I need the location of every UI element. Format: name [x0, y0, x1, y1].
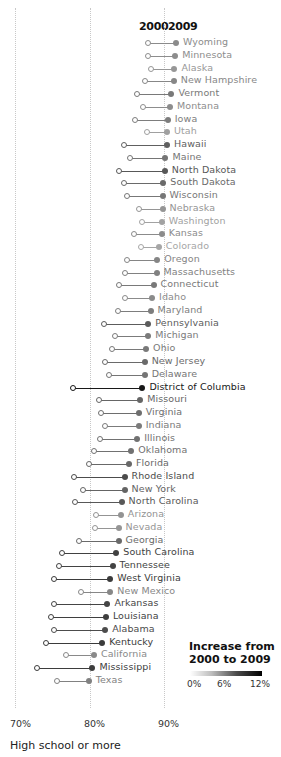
state-label: Pennsylvania [155, 317, 219, 328]
state-row: Massachusetts [0, 268, 281, 280]
marker-2000 [63, 652, 69, 658]
change-segment [115, 336, 149, 337]
marker-2009 [107, 589, 113, 595]
change-segment [134, 234, 162, 235]
marker-2009 [149, 295, 155, 301]
state-row: Minnesota [0, 51, 281, 63]
change-segment [137, 94, 171, 95]
state-label: New Hampshire [181, 74, 257, 85]
state-label: North Dakota [172, 164, 236, 175]
marker-2000 [109, 346, 115, 352]
state-label: North Carolina [129, 495, 199, 506]
state-row: Colorado [0, 242, 281, 254]
marker-2009 [142, 359, 148, 365]
marker-2009 [128, 448, 134, 454]
change-segment [89, 464, 129, 465]
marker-2000 [51, 601, 57, 607]
state-row: Oregon [0, 255, 281, 267]
marker-2000 [86, 461, 92, 467]
state-label: Louisiana [113, 610, 159, 621]
state-label: Minnesota [182, 49, 232, 60]
marker-2000 [136, 206, 142, 212]
marker-2000 [148, 66, 154, 72]
state-label: West Virginia [117, 572, 181, 583]
x-tick-90: 90% [158, 718, 179, 729]
change-segment [51, 617, 106, 618]
marker-2000 [102, 423, 108, 429]
state-label: Kentucky [109, 636, 153, 647]
marker-2000 [122, 295, 128, 301]
change-segment [148, 56, 175, 57]
state-label: New York [132, 483, 176, 494]
marker-2009 [91, 652, 97, 658]
change-segment [54, 604, 107, 605]
marker-2009 [116, 525, 122, 531]
change-segment [75, 502, 121, 503]
change-segment [135, 120, 168, 121]
marker-2009 [119, 499, 125, 505]
marker-2000 [132, 117, 138, 123]
marker-2009 [164, 129, 170, 135]
change-segment [95, 528, 119, 529]
state-label: Maine [172, 151, 201, 162]
marker-2000 [142, 78, 148, 84]
marker-2000 [145, 40, 151, 46]
marker-2009 [156, 244, 162, 250]
marker-2009 [139, 385, 145, 391]
state-row: Washington [0, 217, 281, 229]
state-label: Kansas [169, 227, 203, 238]
change-segment [105, 426, 139, 427]
marker-2009 [136, 423, 142, 429]
marker-2009 [143, 346, 149, 352]
state-label: Georgia [126, 534, 164, 545]
state-label: Arizona [128, 508, 164, 519]
state-row: Michigan [0, 331, 281, 343]
state-label: Maryland [158, 304, 203, 315]
state-label: Nevada [126, 521, 163, 532]
marker-2009 [102, 627, 108, 633]
state-label: Vermont [178, 87, 219, 98]
marker-2009 [162, 168, 168, 174]
marker-2000 [145, 53, 151, 59]
marker-2009 [118, 512, 124, 518]
change-segment [104, 324, 149, 325]
state-row: Virginia [0, 408, 281, 420]
marker-2000 [54, 678, 60, 684]
marker-2000 [127, 155, 133, 161]
state-label: Texas [96, 674, 123, 685]
marker-2000 [121, 180, 127, 186]
marker-2000 [72, 499, 78, 505]
marker-2000 [48, 614, 54, 620]
marker-2000 [101, 321, 107, 327]
marker-2000 [56, 563, 62, 569]
marker-2000 [139, 219, 145, 225]
change-segment [127, 196, 162, 197]
state-label: Idaho [159, 291, 186, 302]
marker-2000 [80, 487, 86, 493]
state-label: Colorado [166, 240, 209, 251]
marker-2000 [93, 512, 99, 518]
state-label: Washington [169, 215, 226, 226]
state-label: Florida [136, 457, 169, 468]
state-label: Wyoming [183, 36, 228, 47]
marker-2000 [144, 129, 150, 135]
marker-2000 [51, 576, 57, 582]
marker-2009 [160, 193, 166, 199]
state-row: Maryland [0, 306, 281, 318]
marker-2009 [136, 410, 142, 416]
marker-2009 [154, 257, 160, 263]
state-label: Massachusetts [164, 266, 236, 277]
change-segment [124, 183, 163, 184]
state-row: Nebraska [0, 204, 281, 216]
marker-2009 [137, 397, 143, 403]
state-label: Illinois [144, 432, 175, 443]
dumbbell-chart: 2000 2009 WyomingMinnesotaAlaskaNew Hamp… [0, 0, 281, 757]
marker-2000 [76, 538, 82, 544]
marker-2009 [159, 219, 165, 225]
change-segment [101, 413, 139, 414]
change-segment [37, 668, 93, 669]
legend-color-scale [190, 671, 262, 676]
state-label: Iowa [175, 113, 198, 124]
marker-2009 [168, 91, 174, 97]
state-label: Wisconsin [170, 189, 218, 200]
